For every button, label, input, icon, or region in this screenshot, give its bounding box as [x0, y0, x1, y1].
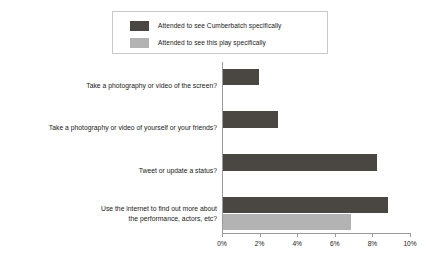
plot-area: 0%2%4%6%8%10% Take a photography or vide… — [222, 62, 410, 233]
bar — [223, 69, 259, 86]
x-tick-label: 4% — [292, 240, 302, 247]
x-tick — [222, 233, 223, 237]
legend-item-cumberbatch: Attended to see Cumberbatch specifically — [130, 20, 281, 31]
legend-label-this-play: Attended to see this play specifically — [158, 39, 266, 46]
x-axis-line — [222, 233, 411, 234]
x-tick — [372, 233, 373, 237]
x-tick — [410, 233, 411, 237]
x-tick-label: 8% — [368, 240, 378, 247]
bar — [223, 214, 351, 231]
bar-chart: Attended to see Cumberbatch specifically… — [0, 0, 427, 273]
legend-swatch-cumberbatch — [130, 21, 149, 31]
x-tick — [297, 233, 298, 237]
x-tick-label: 6% — [330, 240, 340, 247]
chart-legend: Attended to see Cumberbatch specifically… — [112, 11, 328, 54]
category-label: Tweet or update a status? — [7, 166, 222, 176]
legend-item-this-play: Attended to see this play specifically — [130, 37, 266, 48]
legend-swatch-this-play — [130, 38, 149, 48]
legend-label-cumberbatch: Attended to see Cumberbatch specifically — [158, 22, 281, 29]
bar — [223, 154, 377, 171]
category-label: Take a photography or video of yourself … — [7, 123, 222, 133]
x-tick — [335, 233, 336, 237]
x-tick — [260, 233, 261, 237]
category-label: Take a photography or video of the scree… — [7, 81, 222, 91]
bar — [223, 197, 388, 214]
bar — [223, 111, 278, 128]
x-tick-label: 2% — [255, 240, 265, 247]
x-tick-label: 0% — [217, 240, 227, 247]
x-tick-label: 10% — [403, 240, 416, 247]
category-label: Use the internet to find out more about … — [7, 204, 222, 223]
